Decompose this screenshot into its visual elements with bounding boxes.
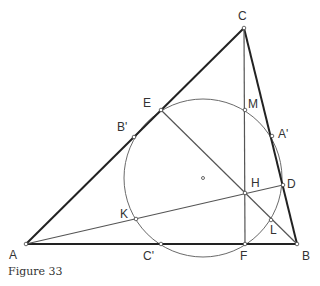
label-D: D (287, 177, 296, 191)
label-C-prime: C' (143, 249, 154, 263)
point-B (295, 242, 299, 246)
label-E: E (143, 96, 151, 110)
label-A-prime: A' (278, 127, 288, 141)
label-B: B (302, 249, 310, 263)
point-E (159, 108, 163, 112)
point-A-prime (270, 134, 274, 138)
point-L (269, 218, 273, 222)
point-C-prime (159, 242, 163, 246)
altitude-CF (244, 28, 245, 244)
point-K (134, 217, 138, 221)
point-H (243, 191, 247, 195)
circle-center (202, 177, 205, 180)
geometry-figure: C M E B' A' H D K L A C' F B (0, 0, 320, 286)
label-M: M (248, 97, 258, 111)
point-C (242, 26, 246, 30)
label-K: K (120, 207, 128, 221)
label-B-prime: B' (117, 120, 127, 134)
point-B-prime (132, 135, 136, 139)
label-F: F (240, 249, 247, 263)
figure-caption: Figure 33 (8, 265, 63, 278)
point-A (24, 242, 28, 246)
label-C: C (238, 9, 247, 23)
point-D (281, 183, 285, 187)
point-M (243, 108, 247, 112)
label-L: L (270, 223, 277, 237)
label-H: H (251, 176, 260, 190)
point-F (243, 242, 247, 246)
label-A: A (9, 248, 17, 262)
